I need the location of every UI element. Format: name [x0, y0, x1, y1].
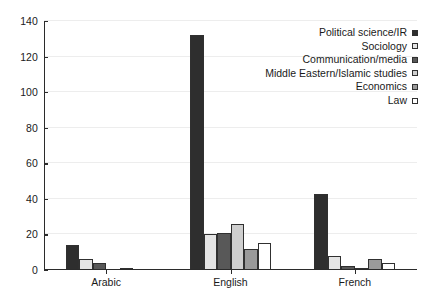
x-axis-tick-label-arabic: Arabic	[91, 276, 121, 288]
y-axis-tick-label: 120	[20, 51, 38, 63]
y-axis-tick-mark	[44, 270, 48, 271]
legend-label: Law	[388, 95, 407, 106]
y-axis-tick-label: 140	[20, 15, 38, 27]
legend-item-economics[interactable]: Economics	[356, 81, 418, 92]
legend-swatch-law	[412, 98, 418, 104]
legend-swatch-political-science	[412, 30, 418, 36]
legend-item-sociology[interactable]: Sociology	[361, 41, 418, 52]
legend-label: Economics	[356, 81, 407, 92]
y-axis-tick-label: 0	[32, 264, 38, 276]
x-axis-tick-label-english: English	[213, 276, 247, 288]
y-axis-tick-mark	[44, 92, 48, 93]
legend-item-communication-media[interactable]: Communication/media	[303, 54, 418, 65]
x-axis-tick-mark	[355, 270, 356, 274]
bar-chart-figure: 020406080100120140 Political science/IRS…	[0, 0, 435, 303]
legend-label: Sociology	[361, 41, 407, 52]
y-axis-tick-label: 20	[26, 228, 38, 240]
legend-swatch-economics	[412, 84, 418, 90]
y-axis-tick-label: 40	[26, 193, 38, 205]
legend-item-law[interactable]: Law	[388, 95, 418, 106]
chart-legend: Political science/IRSociologyCommunicati…	[265, 27, 418, 106]
x-axis-tick-label-french: French	[338, 276, 371, 288]
y-axis-tick-mark	[44, 234, 48, 235]
x-axis-tick-mark	[231, 270, 232, 274]
y-axis-tick-labels: 020406080100120140	[0, 21, 38, 270]
y-axis-tick-mark	[44, 199, 48, 200]
y-axis-tick-mark	[44, 163, 48, 164]
legend-item-political-science-ir[interactable]: Political science/IR	[319, 27, 418, 38]
y-axis-tick-label: 80	[26, 122, 38, 134]
y-axis-tick-label: 100	[20, 86, 38, 98]
legend-swatch-sociology	[412, 43, 418, 49]
legend-swatch-communication-media	[412, 57, 418, 63]
y-axis-tick-mark	[44, 21, 48, 22]
legend-item-middle-eastern-islamic-studies[interactable]: Middle Eastern/Islamic studies	[265, 68, 418, 79]
y-axis-tick-mark	[44, 128, 48, 129]
legend-swatch-middle-eastern-islamic-studies	[412, 70, 418, 76]
y-axis-tick-label: 60	[26, 157, 38, 169]
legend-label: Communication/media	[303, 54, 407, 65]
legend-label: Political science/IR	[319, 27, 407, 38]
x-axis-tick-mark	[106, 270, 107, 274]
legend-label: Middle Eastern/Islamic studies	[265, 68, 407, 79]
y-axis-tick-mark	[44, 57, 48, 58]
